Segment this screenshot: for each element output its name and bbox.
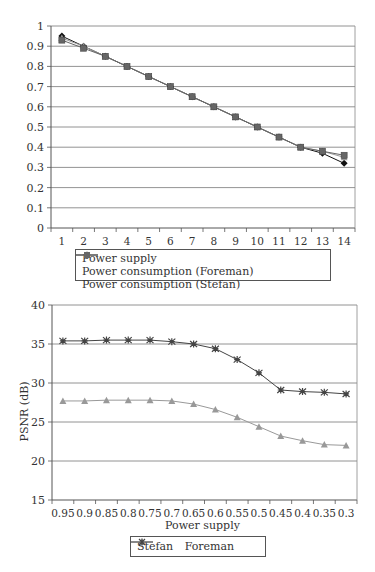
x-tick-label: 0.55 — [225, 507, 248, 519]
x-tick-label: 0.75 — [138, 507, 161, 519]
x-tick-label: 1 — [59, 235, 66, 247]
x-tick-label: 7 — [189, 235, 196, 247]
power-chart: 00.10.20.30.40.50.60.70.80.9112345678910… — [0, 0, 375, 290]
square-marker-icon — [211, 104, 217, 110]
star-marker-icon — [321, 389, 328, 396]
y-tick-label: 0.9 — [27, 40, 45, 53]
series-power-consumption-foreman- — [58, 35, 347, 161]
square-marker-icon — [233, 114, 239, 120]
square-marker-icon — [254, 124, 260, 130]
square-marker-icon — [76, 250, 98, 260]
x-tick-label: 5 — [145, 235, 152, 247]
x-tick-label: 11 — [272, 235, 285, 247]
y-tick-label: 25 — [31, 416, 45, 429]
x-tick-label: 6 — [167, 235, 174, 247]
x-tick-label: 2 — [80, 235, 87, 247]
psnr-chart-legend: Stefan Foreman — [130, 536, 266, 557]
y-tick-label: 40 — [31, 299, 45, 312]
square-marker-icon — [81, 45, 87, 51]
square-marker-icon — [146, 74, 152, 80]
y-tick-label: 0 — [37, 222, 44, 235]
star-marker-icon — [234, 356, 241, 363]
star-marker-icon — [131, 537, 153, 547]
x-tick-label: 9 — [232, 235, 239, 247]
star-marker-icon — [277, 387, 284, 394]
star-marker-icon — [103, 337, 110, 344]
x-tick-label: 3 — [102, 235, 109, 247]
y-tick-label: 0.1 — [27, 202, 45, 215]
power-chart-plot: 00.10.20.30.40.50.60.70.80.9112345678910… — [0, 0, 375, 290]
y-tick-label: 0.5 — [27, 121, 45, 134]
x-tick-label: 0.95 — [51, 507, 74, 519]
x-tick-label: 0.5 — [251, 507, 268, 519]
y-tick-label: 1 — [37, 20, 44, 33]
star-marker-icon — [299, 388, 306, 395]
star-marker-icon — [255, 369, 262, 376]
x-tick-label: 4 — [124, 235, 131, 247]
triangle-marker-icon — [277, 433, 284, 440]
square-marker-icon — [59, 37, 65, 43]
square-marker-icon — [102, 53, 108, 59]
x-tick-label: 0.45 — [269, 507, 292, 519]
x-tick-label: 0.9 — [76, 507, 93, 519]
y-tick-label: 0.4 — [27, 141, 45, 154]
power-chart-legend: Power supply Power consumption (Foreman)… — [75, 249, 331, 281]
x-tick-label: 0.8 — [120, 507, 137, 519]
square-marker-icon — [319, 148, 325, 154]
series-power-supply — [58, 33, 347, 167]
x-tick-label: 0.4 — [294, 507, 311, 519]
square-marker-icon — [298, 144, 304, 150]
x-tick-label: 10 — [251, 235, 264, 247]
star-marker-icon — [147, 337, 154, 344]
y-tick-label: 20 — [31, 455, 45, 468]
star-marker-icon — [59, 337, 66, 344]
series-power-consumption-stefan- — [59, 37, 347, 158]
legend-item-foreman-consumption: Power consumption (Foreman) — [82, 265, 254, 278]
triangle-marker-icon — [234, 414, 241, 421]
x-tick-label: 12 — [294, 235, 307, 247]
x-tick-label: 0.65 — [182, 507, 205, 519]
star-marker-icon — [168, 338, 175, 345]
triangle-marker-icon — [255, 423, 262, 430]
x-tick-label: 13 — [316, 235, 329, 247]
diamond-marker-icon — [341, 160, 348, 167]
square-marker-icon — [189, 94, 195, 100]
square-marker-icon — [124, 63, 130, 69]
star-marker-icon — [125, 337, 132, 344]
y-tick-label: 0.7 — [27, 81, 45, 94]
square-marker-icon — [167, 84, 173, 90]
y-tick-label: 0.2 — [27, 182, 45, 195]
y-tick-label: 0.8 — [27, 60, 45, 73]
star-marker-icon — [190, 341, 197, 348]
legend-label: Foreman — [185, 539, 235, 554]
y-tick-label: 35 — [31, 338, 45, 351]
x-tick-label: 0.6 — [207, 507, 224, 519]
legend-label: Power consumption (Foreman) — [82, 265, 254, 278]
square-marker-icon — [341, 152, 347, 158]
x-tick-label: 0.35 — [313, 507, 336, 519]
x-tick-label: 0.7 — [163, 507, 180, 519]
square-marker-icon — [276, 134, 282, 140]
x-tick-label: 14 — [337, 235, 351, 247]
x-tick-label: 8 — [211, 235, 218, 247]
star-marker-icon — [343, 390, 350, 397]
star-marker-icon — [81, 337, 88, 344]
x-tick-label: 0.3 — [338, 507, 355, 519]
y-tick-label: 15 — [31, 494, 45, 507]
y-tick-label: 0.6 — [27, 101, 45, 114]
series-foreman — [59, 337, 349, 398]
psnr-chart: 1520253035400.950.90.850.80.750.70.650.6… — [0, 290, 375, 572]
x-tick-label: 0.85 — [95, 507, 118, 519]
y-tick-label: 30 — [31, 377, 45, 390]
series-stefan — [59, 397, 349, 449]
psnr-y-axis-label: PSNR (dB) — [18, 382, 31, 442]
psnr-x-axis-label: Power supply — [0, 519, 375, 532]
legend-item-foreman: Foreman — [185, 539, 235, 554]
y-tick-label: 0.3 — [27, 161, 45, 174]
star-marker-icon — [212, 345, 219, 352]
